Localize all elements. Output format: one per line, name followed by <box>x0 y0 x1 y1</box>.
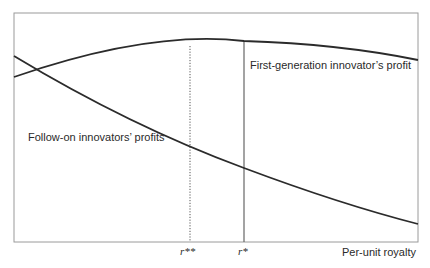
x-axis-label: Per-unit royalty <box>342 246 416 258</box>
follow-on-curve-label: Follow-on innovators’ profits <box>28 131 165 143</box>
first-generation-curve-label: First-generation innovator’s profit <box>250 59 411 71</box>
r-double-star-tick-label: r** <box>180 245 195 257</box>
r-star-tick-label: r* <box>238 245 248 257</box>
first-generation-profit-curve <box>14 39 418 77</box>
